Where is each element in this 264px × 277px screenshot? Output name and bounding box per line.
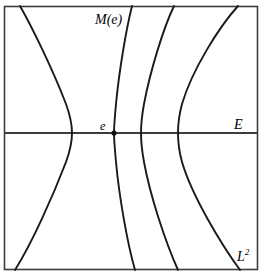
figure-background [0, 0, 264, 277]
figure-canvas [0, 0, 264, 277]
curve-family-label: M(e) [95, 13, 122, 27]
identity-point-label: e [100, 120, 105, 132]
identity-point-dot [111, 130, 116, 135]
axis-right-label: E [234, 118, 243, 132]
figure-container: M(e) e E L2 [0, 0, 264, 277]
space-label-exponent: 2 [245, 247, 250, 257]
space-label-bottom-right: L2 [237, 250, 249, 264]
space-label-base: L [237, 249, 245, 264]
